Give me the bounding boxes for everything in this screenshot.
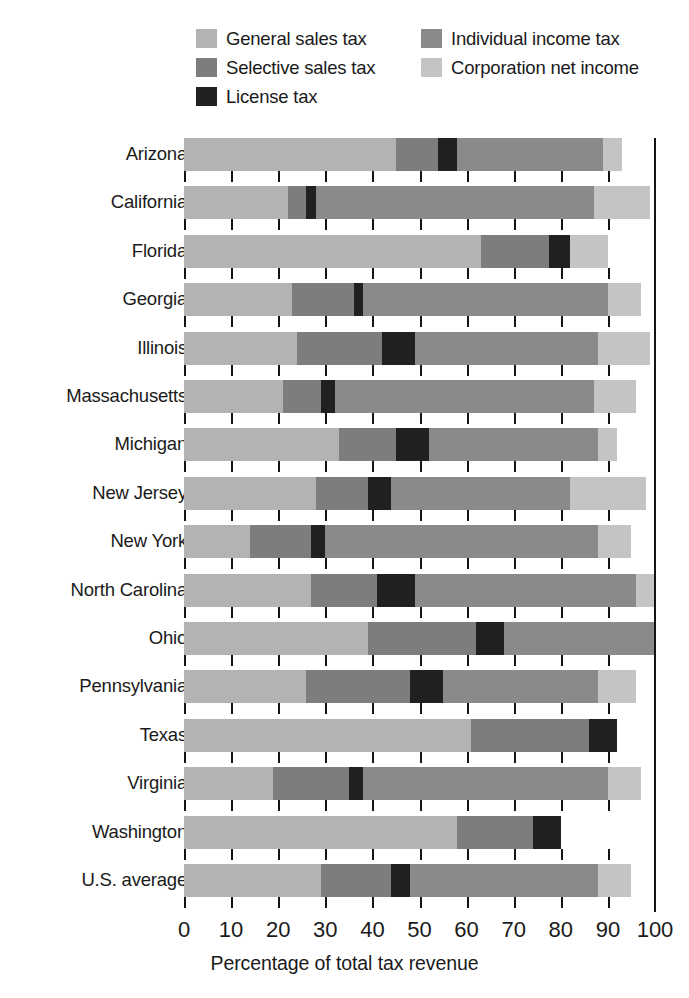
legend-item-label: Selective sales tax	[226, 58, 375, 77]
tick-mark	[420, 655, 422, 666]
x-axis-tick-label: 100	[625, 916, 685, 944]
stacked-bar	[184, 525, 631, 558]
tick-mark	[561, 461, 563, 472]
y-axis-category-label: Washington	[92, 814, 187, 850]
stacked-bar	[184, 670, 636, 703]
tick-mark	[231, 268, 233, 279]
tick-mark	[278, 268, 280, 279]
tick-mark	[608, 461, 610, 472]
tick-mark	[372, 752, 374, 763]
tick-mark	[184, 558, 186, 569]
tick-mark	[231, 171, 233, 182]
tick-mark	[561, 268, 563, 279]
chart-row: California	[0, 184, 689, 230]
tick-mark	[278, 752, 280, 763]
tick-mark	[278, 316, 280, 327]
bar-segment	[184, 138, 396, 171]
tick-mark	[184, 510, 186, 521]
tick-mark	[608, 897, 610, 908]
tick-mark	[561, 655, 563, 666]
tick-mark	[608, 268, 610, 279]
tick-mark	[420, 461, 422, 472]
y-axis-category-label: New Jersey	[92, 475, 187, 511]
bar-segment	[321, 380, 335, 413]
tick-mark	[420, 558, 422, 569]
legend-item: Selective sales tax	[196, 53, 421, 82]
bar-segment	[288, 186, 307, 219]
tick-mark	[231, 219, 233, 230]
tick-mark	[561, 703, 563, 714]
tick-mark	[467, 800, 469, 811]
tick-mark	[278, 897, 280, 908]
bar-segment	[598, 525, 631, 558]
bar-segment	[339, 428, 396, 461]
y-axis-category-label: North Carolina	[71, 572, 187, 608]
tick-mark	[325, 510, 327, 521]
tick-mark	[325, 461, 327, 472]
tick-mark	[514, 800, 516, 811]
stacked-bar	[184, 477, 646, 510]
tick-mark	[231, 461, 233, 472]
tick-mark	[372, 655, 374, 666]
tick-mark	[184, 461, 186, 472]
stacked-bar	[184, 864, 631, 897]
tick-mark	[420, 413, 422, 424]
tick-mark	[561, 219, 563, 230]
tick-mark	[325, 849, 327, 860]
tick-mark	[278, 655, 280, 666]
row-tick-marks	[184, 849, 655, 860]
y-axis-category-label: Georgia	[123, 281, 187, 317]
tick-mark	[231, 752, 233, 763]
chart-row: Florida	[0, 233, 689, 279]
tick-mark	[420, 268, 422, 279]
tick-mark	[420, 365, 422, 376]
row-tick-marks	[184, 461, 655, 472]
bar-segment	[306, 186, 315, 219]
tick-mark	[608, 752, 610, 763]
legend-item-label: License tax	[226, 87, 317, 106]
bar-segment	[570, 235, 608, 268]
tick-mark	[467, 268, 469, 279]
legend-swatch-icon	[196, 29, 217, 48]
chart-row: Virginia	[0, 765, 689, 811]
bar-segment	[184, 380, 283, 413]
tick-mark	[467, 752, 469, 763]
stacked-bar-chart: General sales taxIndividual income taxSe…	[0, 0, 689, 998]
tick-mark	[608, 510, 610, 521]
bar-segment	[184, 767, 273, 800]
tick-mark	[184, 849, 186, 860]
tick-mark	[372, 510, 374, 521]
tick-mark	[231, 607, 233, 618]
legend-swatch-icon	[421, 58, 442, 77]
bar-segment	[429, 428, 599, 461]
bar-segment	[184, 622, 368, 655]
y-axis-category-label: New York	[110, 523, 187, 559]
tick-mark	[467, 316, 469, 327]
tick-mark	[184, 413, 186, 424]
tick-mark	[514, 703, 516, 714]
tick-mark	[420, 752, 422, 763]
tick-mark	[184, 703, 186, 714]
bar-segment	[184, 574, 311, 607]
stacked-bar	[184, 574, 655, 607]
y-axis-category-label: Ohio	[149, 620, 187, 656]
tick-mark	[372, 607, 374, 618]
row-tick-marks	[184, 655, 655, 666]
bar-segment	[476, 622, 504, 655]
tick-mark	[372, 703, 374, 714]
tick-mark	[325, 752, 327, 763]
legend-item: General sales tax	[196, 24, 421, 53]
chart-row: New York	[0, 523, 689, 569]
legend-swatch-icon	[196, 58, 217, 77]
bar-segment	[410, 864, 598, 897]
tick-mark	[467, 510, 469, 521]
tick-mark	[514, 752, 516, 763]
tick-mark	[514, 365, 516, 376]
bar-segment	[368, 477, 392, 510]
tick-mark	[608, 558, 610, 569]
tick-mark	[278, 510, 280, 521]
bar-segment	[636, 574, 655, 607]
y-axis-category-label: Pennsylvania	[79, 668, 187, 704]
tick-mark	[514, 510, 516, 521]
tick-mark	[231, 703, 233, 714]
